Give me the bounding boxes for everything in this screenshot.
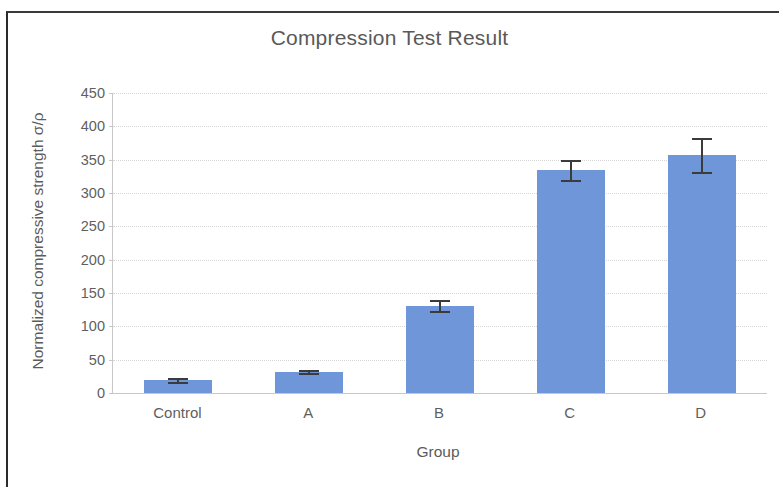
- y-tick-label: 0: [45, 385, 105, 401]
- plot-area: [112, 93, 767, 394]
- y-tick-label: 150: [45, 285, 105, 301]
- error-bar-cap-upper: [692, 138, 712, 140]
- chart-title: Compression Test Result: [0, 26, 779, 50]
- x-tick-label: C: [504, 404, 635, 421]
- error-bar-line: [570, 160, 572, 180]
- y-tick-mark: [109, 393, 113, 394]
- error-bar-cap-upper: [561, 160, 581, 162]
- x-axis-title: Group: [108, 443, 768, 461]
- y-tick-label: 200: [45, 252, 105, 268]
- compression-test-bar-chart: Compression Test Result Normalized compr…: [0, 0, 779, 487]
- error-bar-cap-lower: [561, 180, 581, 182]
- bar: [668, 155, 736, 393]
- bar: [406, 306, 474, 393]
- y-tick-label: 50: [45, 352, 105, 368]
- bar: [537, 170, 605, 393]
- y-tick-label: 250: [45, 218, 105, 234]
- y-tick-label: 300: [45, 185, 105, 201]
- error-bar-cap-lower: [692, 172, 712, 174]
- error-bar-cap-upper: [168, 378, 188, 380]
- y-tick-label: 400: [45, 118, 105, 134]
- error-bar-line: [701, 138, 703, 171]
- y-tick-label: 350: [45, 152, 105, 168]
- bar-group: [113, 93, 244, 393]
- error-bar-cap-lower: [168, 382, 188, 384]
- error-bar-cap-upper: [430, 300, 450, 302]
- x-tick-label: A: [243, 404, 374, 421]
- x-tick-label: B: [374, 404, 505, 421]
- bar-group: [244, 93, 375, 393]
- x-tick-label: D: [635, 404, 766, 421]
- x-tick-label: Control: [112, 404, 243, 421]
- y-tick-label: 100: [45, 318, 105, 334]
- error-bar-cap-lower: [430, 311, 450, 313]
- error-bar-cap-lower: [299, 373, 319, 375]
- bar-group: [505, 93, 636, 393]
- bar-group: [375, 93, 506, 393]
- bars-layer: [113, 93, 767, 393]
- y-tick-label: 450: [45, 85, 105, 101]
- bar-group: [636, 93, 767, 393]
